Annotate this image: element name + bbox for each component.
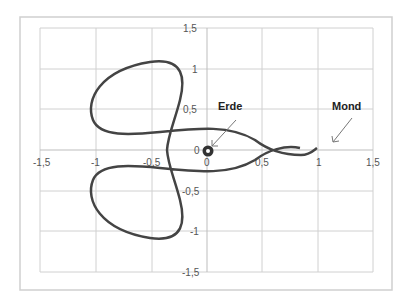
x-tick: 1 [316,157,322,168]
y-tick: 1 [192,64,198,75]
x-tick: 1,5 [366,157,380,168]
earth-marker [203,146,214,157]
y-tick: 1,5 [183,23,197,34]
x-tick: 0 [204,157,210,168]
y-tick: 0 [194,145,200,156]
chart: 1,5 1 0,5 0 -0,5 -1 -1,5 -1,5 -1 -0,5 0 … [0,0,411,304]
x-tick: -1,5 [33,157,51,168]
x-tick: -1 [91,157,100,168]
earth-label: Erde [218,100,242,112]
x-tick-labels: -1,5 -1 -0,5 0 0,5 1 1,5 [33,157,380,168]
y-tick: 0,5 [183,104,197,115]
moon-label: Mond [332,100,361,112]
y-tick: -0,5 [182,186,200,197]
y-tick: -1,5 [182,267,200,278]
y-tick: -1 [190,226,199,237]
